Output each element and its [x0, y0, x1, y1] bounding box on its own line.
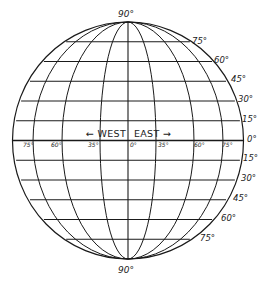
globe-diagram	[0, 0, 266, 283]
globe-grid	[13, 22, 244, 259]
